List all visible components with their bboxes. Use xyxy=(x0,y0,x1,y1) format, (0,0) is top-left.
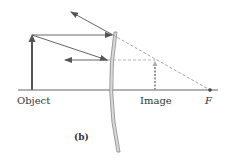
incident-ray-toward-focus xyxy=(32,35,107,60)
focal-point-label: F xyxy=(204,95,213,106)
ray-diagram: Object Image F (b) xyxy=(0,0,231,164)
object-label: Object xyxy=(17,95,50,106)
reflected-ray-1 xyxy=(71,12,113,35)
panel-label: (b) xyxy=(74,132,89,142)
virtual-image-arrow-head xyxy=(153,61,158,66)
focal-point-dot xyxy=(208,88,212,92)
convex-mirror xyxy=(110,32,120,152)
virtual-extension-to-focus xyxy=(113,35,210,90)
image-label: Image xyxy=(140,95,172,106)
